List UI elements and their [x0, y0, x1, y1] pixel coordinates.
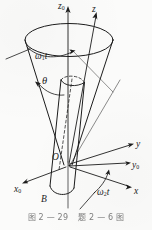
- construction-line-rim: [72, 50, 113, 92]
- omega2t-tail: [80, 192, 95, 209]
- caption-problem-number: 题 2 — 6 图: [78, 213, 124, 222]
- axis-z-line: [69, 16, 96, 164]
- axis-label-x0: x0: [14, 185, 21, 195]
- angle-label-omega2t: ω2t: [97, 188, 109, 198]
- origin-point: [68, 164, 70, 166]
- omega1t-arc: [27, 47, 72, 57]
- rod-top-cap-back: [61, 76, 85, 82]
- omega1t-tail: [6, 49, 30, 59]
- axis-label-y0: y0: [132, 161, 139, 171]
- rod-bottom-cap: [50, 186, 74, 195]
- rod-top-cap-front: [61, 80, 85, 86]
- axis-x-arrow: [126, 185, 132, 190]
- figure-drawing: [0, 0, 152, 230]
- figure-page: z0 z ω1t θ y y0 O x0 B ω2t x 图 2 — 29题 2…: [0, 0, 152, 230]
- axis-y0-arrow: [125, 161, 131, 166]
- figure-caption: 图 2 — 29题 2 — 6 图: [0, 211, 152, 222]
- rod-right-wall: [74, 83, 85, 189]
- axis-y0-line: [70, 163, 127, 166]
- axis-y-line: [70, 145, 130, 164]
- construction-line-right: [70, 80, 120, 165]
- axis-label-z: z: [92, 5, 96, 15]
- angle-label-theta: θ: [42, 76, 47, 87]
- axis-label-x: x: [134, 187, 138, 197]
- rod-left-wall: [50, 80, 61, 186]
- angle-label-omega1t: ω1t: [35, 52, 47, 62]
- caption-figure-number: 图 2 — 29: [28, 213, 69, 222]
- axis-label-y: y: [136, 140, 140, 150]
- axis-label-z0: z0: [58, 2, 65, 12]
- axis-x-line: [70, 167, 128, 186]
- origin-label-O: O: [52, 153, 59, 163]
- theta-arc-arrow: [35, 81, 41, 87]
- axis-x0-line: [26, 167, 66, 182]
- point-label-B: B: [41, 195, 47, 205]
